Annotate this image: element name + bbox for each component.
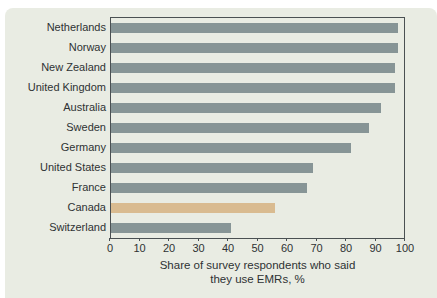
x-tick-label: 0 <box>107 242 113 254</box>
category-label: Norway <box>5 37 106 57</box>
bar-row <box>111 98 404 118</box>
x-tick-label: 60 <box>281 242 293 254</box>
bar-france <box>111 183 307 193</box>
x-tick-mark <box>109 238 110 241</box>
bar-united-states <box>111 163 313 173</box>
x-tick-mark <box>345 238 346 241</box>
bar-germany <box>111 143 351 153</box>
x-tick-label: 80 <box>340 242 352 254</box>
x-tick-label: 30 <box>192 242 204 254</box>
x-tick-label: 40 <box>222 242 234 254</box>
x-axis: 0102030405060708090100 <box>110 238 405 256</box>
category-label: Switzerland <box>5 217 106 237</box>
x-tick-mark <box>257 238 258 241</box>
bar-netherlands <box>111 23 398 33</box>
x-tick-mark <box>375 238 376 241</box>
bar-row <box>111 198 404 218</box>
category-label: United States <box>5 157 106 177</box>
x-tick-label: 50 <box>251 242 263 254</box>
x-tick-mark <box>286 238 287 241</box>
x-tick-label: 100 <box>396 242 414 254</box>
page-background: NetherlandsNorwayNew ZealandUnited Kingd… <box>0 0 437 298</box>
category-label: Canada <box>5 197 106 217</box>
bar-row <box>111 18 404 38</box>
x-axis-title: Share of survey respondents who said the… <box>110 258 405 286</box>
x-tick-mark <box>227 238 228 241</box>
bar-row <box>111 118 404 138</box>
category-label: France <box>5 177 106 197</box>
category-label: Germany <box>5 137 106 157</box>
x-tick-label: 70 <box>310 242 322 254</box>
x-tick-mark <box>316 238 317 241</box>
bar-australia <box>111 103 381 113</box>
x-tick-label: 20 <box>163 242 175 254</box>
x-axis-title-line1: Share of survey respondents who said <box>110 258 405 272</box>
category-label: Sweden <box>5 117 106 137</box>
x-axis-title-line2: they use EMRs, % <box>110 272 405 286</box>
bar-row <box>111 218 404 238</box>
x-tick-mark <box>198 238 199 241</box>
bar-canada <box>111 203 275 213</box>
category-label: Netherlands <box>5 17 106 37</box>
x-tick-mark <box>168 238 169 241</box>
x-tick-mark <box>404 238 405 241</box>
bar-row <box>111 58 404 78</box>
category-label: Australia <box>5 97 106 117</box>
bar-row <box>111 158 404 178</box>
bar-row <box>111 78 404 98</box>
category-axis: NetherlandsNorwayNew ZealandUnited Kingd… <box>5 17 106 237</box>
bar-switzerland <box>111 223 231 233</box>
x-tick-label: 10 <box>133 242 145 254</box>
category-label: New Zealand <box>5 57 106 77</box>
bar-sweden <box>111 123 369 133</box>
chart-card: NetherlandsNorwayNew ZealandUnited Kingd… <box>5 8 437 298</box>
plot-area <box>110 17 405 239</box>
bar-united-kingdom <box>111 83 395 93</box>
bar-row <box>111 138 404 158</box>
bar-row <box>111 38 404 58</box>
bar-new-zealand <box>111 63 395 73</box>
category-label: United Kingdom <box>5 77 106 97</box>
bar-norway <box>111 43 398 53</box>
bar-row <box>111 178 404 198</box>
x-tick-label: 90 <box>369 242 381 254</box>
x-tick-mark <box>139 238 140 241</box>
